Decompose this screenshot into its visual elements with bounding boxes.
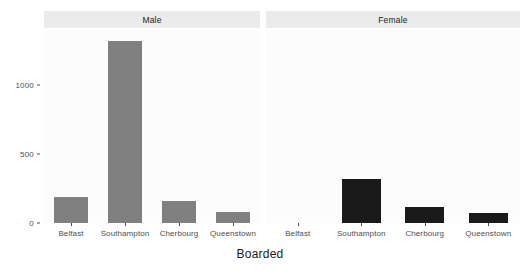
x-tick-mark [125, 223, 126, 226]
plot-area-female [266, 30, 520, 223]
facet-panel-male: Male BelfastSouthamptonCherbourgQueensto… [44, 0, 260, 272]
bar-female-southampton [342, 179, 381, 223]
y-tick-label-0: 0 [29, 219, 34, 228]
plot-area-male [44, 30, 260, 223]
y-tick-mark [37, 154, 40, 155]
x-tick-mark [233, 223, 234, 226]
x-tick-mark [425, 223, 426, 226]
y-axis: 0 500 1000 [0, 0, 44, 272]
x-axis-title: Boarded [0, 247, 520, 261]
x-tick-mark [361, 223, 362, 226]
bar-male-southampton [108, 41, 141, 223]
facet-panel-female: Female BelfastSouthamptonCherbourgQueens… [266, 0, 520, 272]
x-tick-label-queenstown: Queenstown [210, 229, 256, 238]
x-tick-label-southampton: Southampton [101, 229, 150, 238]
y-tick-mark [37, 85, 40, 86]
x-tick-mark [179, 223, 180, 226]
bar-female-cherbourg [405, 207, 444, 223]
x-tick-label-southampton: Southampton [337, 229, 386, 238]
y-tick-label-1000: 1000 [15, 81, 34, 90]
x-tick-label-belfast: Belfast [285, 229, 310, 238]
facet-strip-male: Male [44, 11, 260, 28]
x-tick-label-belfast: Belfast [58, 229, 83, 238]
y-tick-label-500: 500 [20, 150, 34, 159]
x-tick-mark [488, 223, 489, 226]
bar-female-queenstown [469, 213, 508, 223]
bar-male-belfast [54, 197, 87, 223]
x-tick-label-queenstown: Queenstown [465, 229, 511, 238]
x-tick-mark [71, 223, 72, 226]
bar-male-queenstown [216, 212, 249, 223]
facet-strip-female: Female [266, 11, 520, 28]
facet-panels: Male BelfastSouthamptonCherbourgQueensto… [44, 0, 520, 272]
facet-strip-label-male: Male [142, 15, 161, 25]
x-tick-label-cherbourg: Cherbourg [160, 229, 199, 238]
facet-strip-label-female: Female [378, 15, 408, 25]
faceted-bar-chart: 0 500 1000 Male BelfastSouthamptonCherbo… [0, 0, 520, 272]
x-tick-label-cherbourg: Cherbourg [405, 229, 444, 238]
y-tick-mark [37, 223, 40, 224]
bar-male-cherbourg [162, 201, 195, 223]
x-tick-mark [298, 223, 299, 226]
